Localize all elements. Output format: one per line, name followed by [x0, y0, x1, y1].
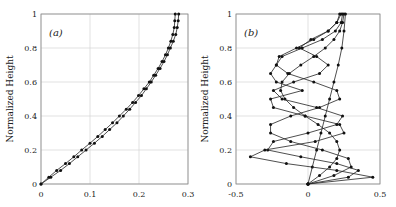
data-marker	[96, 135, 99, 138]
series-line	[41, 14, 179, 184]
data-marker	[137, 94, 140, 97]
y-axis-label: Normalized Height	[200, 55, 210, 143]
data-marker	[162, 60, 165, 63]
data-marker	[173, 19, 176, 22]
data-marker	[335, 89, 338, 92]
data-marker	[321, 38, 324, 41]
data-marker	[347, 157, 350, 160]
data-marker	[328, 98, 331, 101]
data-marker	[327, 30, 330, 33]
data-marker	[332, 81, 335, 84]
data-marker	[292, 106, 295, 109]
data-marker	[318, 72, 321, 75]
y-axis-label: Normalized Height	[5, 55, 15, 143]
data-marker	[176, 26, 179, 29]
y-tick-label: 1	[32, 10, 37, 19]
data-marker	[327, 64, 330, 67]
data-marker	[321, 149, 324, 152]
panel-a: 00.10.20.300.20.40.60.81Normalized Heigh…	[5, 10, 194, 199]
y-tick-label: 0	[32, 180, 37, 189]
data-marker	[72, 155, 75, 158]
data-marker	[318, 174, 321, 177]
y-tick-label: 0.2	[24, 146, 37, 155]
data-marker	[272, 89, 275, 92]
panel-b: -0.500.500.20.40.60.81Normalized Height(…	[200, 10, 386, 199]
data-marker	[269, 132, 272, 135]
chart-figure: 00.10.20.300.20.40.60.81Normalized Heigh…	[0, 0, 396, 207]
data-marker	[272, 140, 275, 143]
x-tick-label: 0.1	[84, 190, 97, 199]
data-marker	[169, 47, 172, 50]
data-marker	[301, 89, 304, 92]
data-marker	[68, 162, 71, 165]
y-tick-label: 0.2	[219, 146, 232, 155]
data-marker	[299, 64, 302, 67]
data-marker	[281, 98, 284, 101]
data-marker	[40, 183, 43, 186]
data-marker	[292, 81, 295, 84]
data-marker	[85, 149, 88, 152]
data-marker	[272, 106, 275, 109]
data-marker	[111, 121, 114, 124]
data-marker	[347, 176, 350, 179]
data-marker	[335, 140, 338, 143]
data-marker	[174, 33, 177, 36]
data-marker	[269, 98, 272, 101]
data-marker	[145, 87, 148, 90]
data-marker	[150, 81, 153, 84]
data-marker	[140, 94, 143, 97]
data-marker	[279, 89, 282, 92]
panel-label: (b)	[244, 27, 258, 38]
y-tick-label: 0.8	[219, 44, 232, 53]
data-marker	[174, 13, 177, 16]
data-marker	[154, 74, 157, 77]
x-tick-label: 0.3	[182, 190, 195, 199]
data-marker	[93, 142, 96, 145]
data-marker	[312, 38, 315, 41]
data-marker	[275, 81, 278, 84]
data-marker	[286, 72, 289, 75]
data-marker	[118, 115, 121, 118]
y-tick-label: 0.8	[24, 44, 37, 53]
panel-label: (a)	[49, 27, 63, 38]
data-marker	[315, 106, 318, 109]
data-marker	[289, 115, 292, 118]
data-marker	[307, 183, 310, 186]
data-marker	[340, 21, 343, 24]
data-marker	[295, 47, 298, 50]
data-marker	[166, 53, 169, 56]
data-marker	[314, 140, 317, 143]
plot-frame	[41, 14, 188, 184]
data-marker	[341, 115, 344, 118]
data-marker	[159, 67, 162, 70]
data-marker	[269, 123, 272, 126]
data-marker	[335, 169, 338, 172]
data-marker	[275, 64, 278, 67]
data-marker	[281, 81, 284, 84]
data-marker	[249, 155, 252, 158]
data-marker	[332, 38, 335, 41]
y-tick-label: 0.6	[219, 78, 232, 87]
data-marker	[289, 140, 292, 143]
data-marker	[131, 101, 134, 104]
data-marker	[315, 55, 318, 58]
data-marker	[76, 155, 79, 158]
data-marker	[338, 123, 341, 126]
data-marker	[335, 21, 338, 24]
x-tick-label: 0.2	[133, 190, 146, 199]
data-marker	[177, 19, 180, 22]
x-tick-label: 0	[38, 190, 43, 199]
data-marker	[299, 155, 302, 158]
data-marker	[343, 30, 346, 33]
data-marker	[122, 115, 125, 118]
data-marker	[172, 40, 175, 43]
data-marker	[55, 169, 58, 172]
data-marker	[343, 132, 346, 135]
data-marker	[108, 128, 111, 131]
data-marker	[49, 176, 52, 179]
x-tick-label: 0.5	[374, 190, 387, 199]
data-marker	[115, 121, 118, 124]
data-marker	[128, 108, 131, 111]
data-marker	[340, 47, 343, 50]
y-tick-label: 0.4	[219, 112, 232, 121]
